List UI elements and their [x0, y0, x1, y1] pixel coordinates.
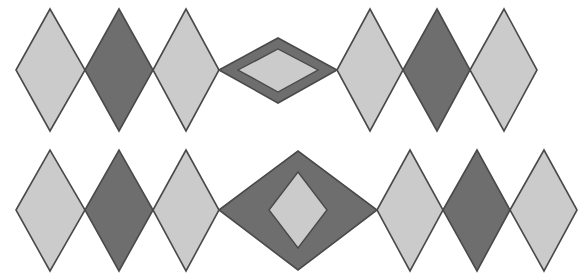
figure-canvas	[0, 0, 588, 277]
diamond-chain-figure	[0, 0, 588, 277]
